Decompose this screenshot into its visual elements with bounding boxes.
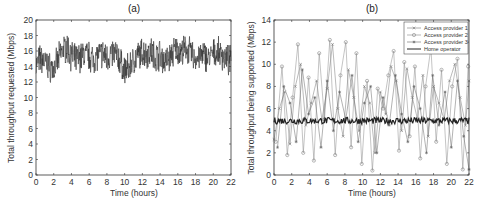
x-tick-label: 20: [447, 177, 457, 187]
marker-star: [307, 113, 310, 116]
y-tick-label: 2: [28, 155, 33, 165]
chart-a-plot-area: 024681012141618202202468101214161820: [24, 15, 236, 187]
marker-star: [413, 41, 416, 44]
x-tick-label: 16: [173, 177, 183, 187]
y-tick-label: 12: [262, 37, 272, 47]
x-tick-label: 18: [429, 177, 439, 187]
marker-star: [456, 79, 459, 82]
x-tick-label: 2: [289, 177, 294, 187]
y-tick-label: 8: [266, 81, 271, 91]
legend-entry-label: Home operator: [424, 46, 461, 52]
chart-b-legend: Access provider 1Access provider 2Access…: [404, 22, 468, 54]
chart-b-title: (b): [366, 3, 378, 14]
x-tick-label: 8: [343, 177, 348, 187]
chart-panel-b: (b) 024681012141618202202468101214 Acces…: [240, 0, 480, 203]
x-tick-label: 8: [105, 177, 110, 187]
x-tick-label: 4: [307, 177, 312, 187]
x-tick-label: 0: [34, 177, 39, 187]
legend-entry-label: Access provider 3: [424, 39, 468, 45]
x-tick-label: 22: [464, 177, 474, 187]
y-tick-label: 14: [262, 15, 272, 25]
x-tick-label: 12: [376, 177, 386, 187]
marker-star: [425, 151, 428, 154]
marker-star: [369, 85, 372, 88]
marker-star: [413, 85, 416, 88]
x-tick-label: 20: [209, 177, 219, 187]
marker-star: [431, 74, 434, 77]
y-tick-label: 12: [24, 77, 34, 87]
y-tick-label: 10: [24, 93, 34, 103]
chart-a-ylabel: Total throughput requested (Mbps): [6, 33, 16, 163]
chart-a-xlabel: Time (hours): [110, 188, 158, 198]
marker-star: [282, 85, 285, 88]
x-tick-label: 0: [272, 177, 277, 187]
series-access-provider-2: [276, 40, 468, 171]
marker-star: [450, 146, 453, 149]
x-tick-label: 14: [393, 177, 403, 187]
marker-star: [332, 129, 335, 132]
y-tick-label: 4: [28, 139, 33, 149]
marker-star: [301, 68, 304, 71]
x-tick-label: 10: [358, 177, 368, 187]
x-tick-label: 2: [51, 177, 56, 187]
y-tick-label: 8: [28, 108, 33, 118]
x-tick-label: 14: [155, 177, 165, 187]
series-line: [36, 36, 231, 83]
x-tick-label: 22: [226, 177, 236, 187]
y-tick-label: 18: [24, 31, 34, 41]
x-tick-label: 12: [138, 177, 148, 187]
marker-star: [406, 140, 409, 143]
marker-star: [419, 107, 422, 110]
y-tick-label: 20: [24, 15, 34, 25]
marker-star: [382, 96, 385, 99]
marker-star: [313, 96, 316, 99]
y-tick-label: 4: [266, 126, 271, 136]
x-tick-label: 6: [325, 177, 330, 187]
legend-entry-label: Access provider 1: [424, 25, 468, 31]
marker-star: [276, 146, 279, 149]
chart-b-ylabel: Total throughput being supported (Mbps): [246, 21, 256, 174]
legend-entry-label: Access provider 2: [424, 32, 468, 38]
x-tick-label: 6: [87, 177, 92, 187]
y-tick-label: 10: [262, 59, 272, 69]
y-tick-label: 0: [266, 170, 271, 180]
marker-star: [444, 90, 447, 93]
x-tick-label: 16: [411, 177, 421, 187]
marker-star: [462, 135, 465, 138]
marker-star: [295, 140, 298, 143]
y-tick-label: 6: [266, 104, 271, 114]
marker-star: [338, 90, 341, 93]
marker-star: [400, 113, 403, 116]
y-tick-label: 14: [24, 62, 34, 72]
marker-star: [394, 74, 397, 77]
marker-star: [351, 74, 354, 77]
marker-star: [288, 102, 291, 105]
x-tick-label: 18: [191, 177, 201, 187]
chart-b-svg: (b) 024681012141618202202468101214 Acces…: [240, 0, 480, 203]
chart-b-xlabel: Time (hours): [348, 188, 396, 198]
y-tick-label: 16: [24, 46, 34, 56]
marker-star: [357, 140, 360, 143]
chart-a-svg: (a) 024681012141618202202468101214161820…: [0, 0, 240, 203]
marker-star: [326, 79, 329, 82]
y-tick-label: 0: [28, 170, 33, 180]
x-tick-label: 10: [120, 177, 130, 187]
marker-star: [363, 102, 366, 105]
x-tick-label: 4: [69, 177, 74, 187]
chart-a-title: (a): [128, 3, 140, 14]
chart-panel-a: (a) 024681012141618202202468101214161820…: [0, 0, 240, 203]
marker-star: [375, 151, 378, 154]
marker-star: [319, 146, 322, 149]
y-tick-label: 2: [266, 148, 271, 158]
y-tick-label: 6: [28, 124, 33, 134]
